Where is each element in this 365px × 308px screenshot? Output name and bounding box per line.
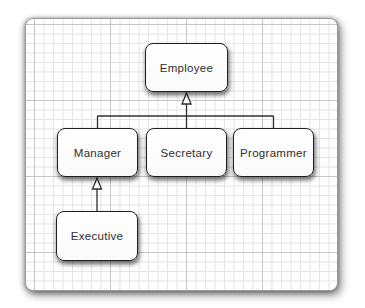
class-node-label: Executive [71,230,124,242]
class-node-label: Secretary [161,147,213,159]
edge-subclasses-to-employee[interactable] [98,93,274,128]
class-node-executive[interactable]: Executive [56,211,138,261]
screenshot-stage: Employee Manager Secretary Programmer Ex… [0,0,365,308]
class-node-programmer[interactable]: Programmer [233,128,314,177]
generalization-arrowhead-manager-icon [93,178,102,189]
edge-executive-to-manager[interactable] [93,178,102,211]
diagram-canvas[interactable]: Employee Manager Secretary Programmer Ex… [25,18,338,291]
class-node-label: Manager [74,147,122,159]
class-node-label: Programmer [240,147,307,159]
generalization-arrowhead-employee-icon [182,93,191,104]
class-node-employee[interactable]: Employee [145,43,228,92]
class-node-manager[interactable]: Manager [57,128,138,177]
class-node-secretary[interactable]: Secretary [146,128,227,177]
class-node-label: Employee [160,62,214,74]
